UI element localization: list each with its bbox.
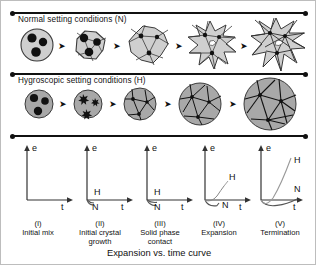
normal-stage-1	[17, 25, 57, 65]
normal-stage-5	[250, 17, 306, 73]
chart-panel-3: e t H N	[135, 142, 197, 208]
hygroscopic-stage-3	[121, 85, 159, 123]
divider-cap-left	[10, 11, 15, 16]
chart-panel-4: e t H N	[193, 142, 257, 208]
chart-roman-3: (III)	[129, 219, 191, 228]
divider-cap-left	[10, 134, 15, 139]
divider-bar-top	[11, 12, 307, 14]
chart-title-5: Termination	[247, 228, 313, 237]
chart-panel-5: e t H N	[249, 142, 315, 208]
chart-5-y-axis-label: e	[266, 143, 271, 153]
chart-2-y-axis-label: e	[92, 143, 97, 153]
chart-3-x-axis-label: t	[181, 202, 184, 212]
chart-title-4: Expansion	[187, 228, 251, 237]
chart-2-series-label-n: N	[92, 202, 99, 212]
hygroscopic-stage-2	[71, 87, 105, 121]
hygroscopic-arrow-3: ➤	[164, 100, 172, 109]
figure-frame: Normal setting conditions (N) ➤ ➤	[0, 0, 316, 265]
chart-3-y-axis-label: e	[152, 143, 157, 153]
chart-caption-2: (II) Initial crystal growth	[67, 219, 133, 247]
row-label-hygroscopic: Hygroscopic setting conditions (H)	[18, 76, 146, 85]
normal-arrow-4: ➤	[240, 42, 248, 51]
chart-2-series-label-h: H	[94, 187, 101, 197]
chart-2-x-axis-label: t	[121, 202, 124, 212]
normal-arrow-2: ➤	[113, 42, 121, 51]
chart-title-3: Solid phase contact	[129, 228, 191, 246]
chart-caption-5: (V) Termination	[247, 219, 313, 237]
normal-arrow-3: ➤	[175, 42, 183, 51]
hygroscopic-stage-4	[176, 80, 224, 128]
row-label-normal: Normal setting conditions (N)	[18, 15, 126, 24]
chart-caption-4: (IV) Expansion	[187, 219, 251, 237]
chart-5-series-label-n: N	[294, 184, 301, 194]
chart-caption-3: (III) Solid phase contact	[129, 219, 191, 247]
divider-cap-right	[303, 11, 308, 16]
chart-5-x-axis-label: t	[293, 202, 296, 212]
chart-3-series-label-n: N	[154, 202, 161, 212]
hygroscopic-arrow-4: ➤	[229, 100, 237, 109]
chart-title-1: Initial mix	[7, 228, 69, 237]
chart-1-y-axis-label: e	[32, 143, 37, 153]
normal-arrow-1: ➤	[58, 42, 66, 51]
divider-cap-right	[303, 134, 308, 139]
hygroscopic-arrow-1: ➤	[59, 100, 67, 109]
chart-roman-1: (I)	[7, 219, 69, 228]
normal-stage-2	[69, 25, 111, 65]
chart-5-series-label-h: H	[294, 155, 301, 165]
chart-caption-1: (I) Initial mix	[7, 219, 69, 237]
chart-roman-2: (II)	[67, 219, 133, 228]
hygroscopic-stage-5	[241, 75, 299, 133]
hygroscopic-stage-1	[22, 87, 56, 121]
chart-panel-2: e t H N	[75, 142, 137, 208]
chart-4-x-axis-label: t	[239, 202, 242, 212]
divider-cap-right	[303, 72, 308, 77]
hygroscopic-arrow-2: ➤	[109, 100, 117, 109]
chart-title-2: Initial crystal growth	[67, 228, 133, 246]
divider-bar-bottom	[11, 135, 307, 137]
chart-panel-1: e t	[15, 142, 77, 208]
divider-cap-left	[10, 72, 15, 77]
chart-4-series-label-h: H	[229, 172, 236, 182]
normal-stage-4	[186, 19, 238, 71]
chart-roman-4: (IV)	[187, 219, 251, 228]
figure-caption: Expansion vs. time curve	[1, 247, 316, 258]
chart-4-series-label-n: N	[222, 200, 229, 210]
chart-4-y-axis-label: e	[210, 143, 215, 153]
chart-roman-5: (V)	[247, 219, 313, 228]
normal-stage-3	[125, 22, 173, 68]
chart-3-series-label-h: H	[154, 187, 161, 197]
chart-1-x-axis-label: t	[61, 202, 64, 212]
